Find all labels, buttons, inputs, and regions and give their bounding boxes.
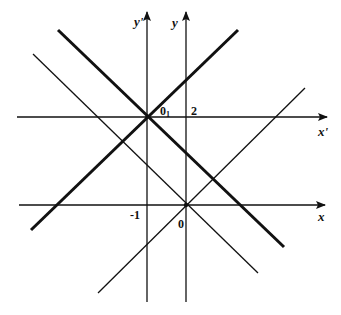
y-tick-label: 2 bbox=[191, 105, 197, 117]
x-label: x bbox=[318, 210, 325, 223]
diagram-canvas: y' y x' x 01 2 -1 0 bbox=[0, 0, 341, 315]
origin-point bbox=[184, 203, 188, 207]
y-label: y bbox=[172, 16, 178, 29]
x-prime-label: x' bbox=[318, 125, 328, 138]
diagram-svg bbox=[0, 0, 341, 315]
new-origin-point bbox=[145, 115, 149, 119]
thin-ascending-line bbox=[98, 88, 305, 293]
thin-descending-line bbox=[33, 54, 258, 273]
thick-descending-line bbox=[58, 30, 284, 247]
new-origin-label: 01 bbox=[160, 105, 170, 119]
y-prime-label: y' bbox=[134, 15, 143, 28]
new-origin-subscript: 1 bbox=[166, 110, 170, 119]
thick-ascending-line bbox=[31, 30, 238, 230]
origin-label: 0 bbox=[178, 218, 184, 230]
x-tick-label: -1 bbox=[130, 209, 140, 221]
